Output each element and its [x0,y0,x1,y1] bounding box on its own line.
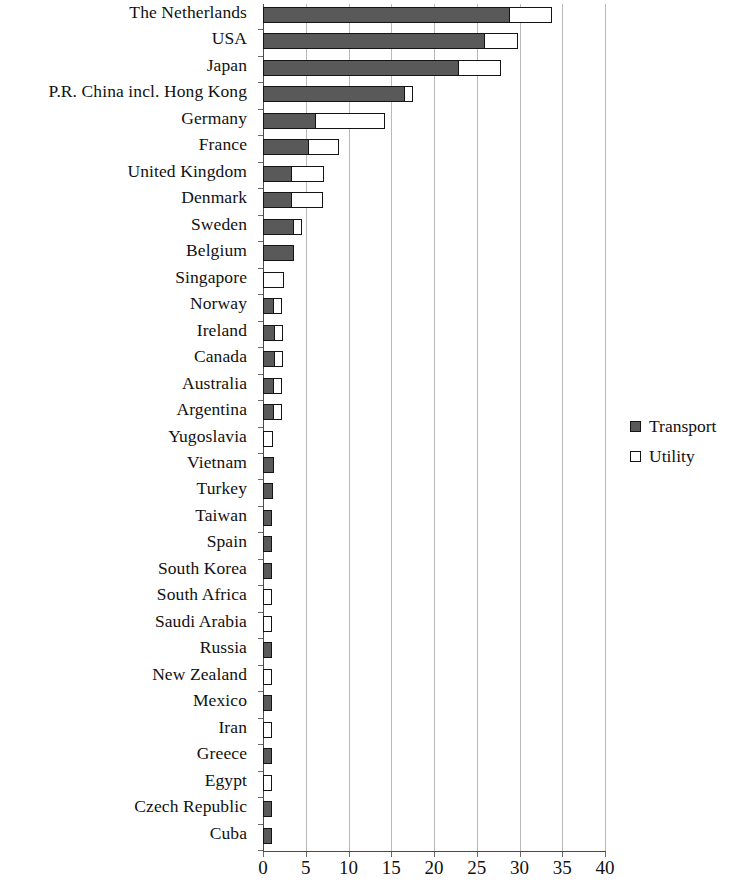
category-label: Germany [181,110,247,127]
y-tick-mark [258,506,263,507]
gridline-35 [562,4,563,852]
bar-segment-utility[interactable] [263,616,272,632]
bar-segment-transport[interactable] [263,7,511,23]
bar-segment-utility[interactable] [293,219,302,235]
bar-segment-utility[interactable] [291,192,323,208]
bar-segment-transport[interactable] [263,483,273,499]
category-label: Yugoslavia [168,428,247,445]
gridline-5 [306,4,307,852]
bar-segment-transport[interactable] [263,801,272,817]
bar-segment-transport[interactable] [263,536,272,552]
category-label: Mexico [193,692,247,709]
legend-item-transport: Transport [630,411,756,441]
x-tick-label: 40 [585,857,625,879]
bar-segment-transport[interactable] [263,748,272,764]
category-label: Cuba [210,825,247,842]
category-label: The Netherlands [129,4,247,21]
y-tick-mark [258,691,263,692]
y-tick-mark [258,744,263,745]
bar-segment-utility[interactable] [308,139,340,155]
bar-segment-transport[interactable] [263,219,295,235]
bar-segment-utility[interactable] [263,669,272,685]
y-tick-mark [258,638,263,639]
bar-segment-utility[interactable] [273,298,282,314]
bar-segment-transport[interactable] [263,828,272,844]
bar-segment-utility[interactable] [458,60,501,76]
bar-segment-utility[interactable] [315,113,385,129]
y-tick-mark [258,162,263,163]
category-label: Taiwan [195,507,247,524]
category-label: Sweden [191,216,247,233]
bar-segment-transport[interactable] [263,86,406,102]
gridline-25 [477,4,478,852]
bar-segment-transport[interactable] [263,166,292,182]
bar-segment-transport[interactable] [263,33,485,49]
category-label: Turkey [196,480,247,497]
y-tick-mark [258,321,263,322]
bar-segment-transport[interactable] [263,695,272,711]
bar-segment-transport[interactable] [263,642,272,658]
category-axis-labels: The NetherlandsUSAJapanP.R. China incl. … [0,0,255,852]
y-tick-mark [258,374,263,375]
x-tick-label: 25 [457,857,497,879]
gridline-15 [391,4,392,852]
bar-segment-utility[interactable] [484,33,518,49]
gridline-30 [520,4,521,852]
category-label: Russia [200,639,247,656]
bar-segment-transport[interactable] [263,245,294,261]
x-tick-label: 5 [286,857,326,879]
bar-segment-utility[interactable] [273,404,282,420]
y-tick-mark [258,29,263,30]
bar-segment-utility[interactable] [274,351,283,367]
category-label: P.R. China incl. Hong Kong [48,83,247,100]
bar-segment-utility[interactable] [263,272,284,288]
category-label: Ireland [197,322,247,339]
bar-segment-utility[interactable] [263,431,273,447]
legend-label-transport: Transport [649,416,716,437]
bar-segment-transport[interactable] [263,563,272,579]
y-tick-mark [258,453,263,454]
x-tick-label: 20 [414,857,454,879]
y-tick-mark [258,400,263,401]
bar-chart: The NetherlandsUSAJapanP.R. China incl. … [0,0,756,883]
category-label: Singapore [175,269,247,286]
category-label: Iran [218,719,247,736]
y-tick-mark [258,479,263,480]
y-tick-mark [258,215,263,216]
bar-segment-utility[interactable] [404,86,413,102]
bar-segment-utility[interactable] [263,722,272,738]
category-label: Greece [197,745,247,762]
category-label: France [199,136,247,153]
bar-segment-transport[interactable] [263,139,309,155]
bar-segment-transport[interactable] [263,113,317,129]
legend-label-utility: Utility [649,446,695,467]
x-tick-label: 10 [329,857,369,879]
bar-segment-transport[interactable] [263,60,460,76]
category-label: Denmark [181,189,247,206]
category-label: Spain [207,533,247,550]
bar-segment-utility[interactable] [263,589,272,605]
y-tick-mark [258,82,263,83]
bar-segment-transport[interactable] [263,192,292,208]
category-label: Belgium [186,242,247,259]
gridline-40 [605,4,606,852]
bar-segment-transport[interactable] [263,457,274,473]
category-label: USA [212,30,247,47]
bar-segment-utility[interactable] [274,325,283,341]
bar-segment-utility[interactable] [273,378,282,394]
y-tick-mark [258,824,263,825]
x-tick-label: 30 [500,857,540,879]
bar-segment-utility[interactable] [263,775,272,791]
y-tick-mark [258,427,263,428]
category-label: Argentina [176,401,247,418]
y-tick-mark [258,718,263,719]
category-label: South Africa [157,586,247,603]
y-tick-mark [258,347,263,348]
bar-segment-utility[interactable] [291,166,324,182]
bar-segment-utility[interactable] [509,7,552,23]
x-tick-label: 35 [542,857,582,879]
y-tick-mark [258,771,263,772]
y-tick-mark [258,268,263,269]
y-tick-mark [258,294,263,295]
bar-segment-transport[interactable] [263,510,272,526]
